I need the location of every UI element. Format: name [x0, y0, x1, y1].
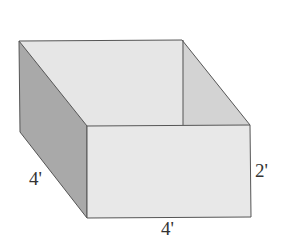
front-face — [87, 125, 251, 218]
open-box-diagram: 4' 4' 2' — [0, 0, 294, 236]
depth-label: 4' — [29, 168, 42, 189]
figure-canvas: 4' 4' 2' — [0, 0, 294, 236]
height-label: 2' — [255, 160, 268, 181]
width-label: 4' — [161, 218, 174, 236]
